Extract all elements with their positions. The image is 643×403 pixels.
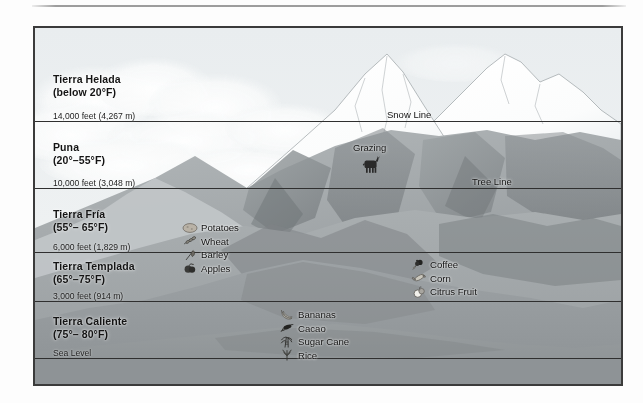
grazing-label: Grazing (353, 142, 386, 153)
barley-icon (181, 248, 198, 261)
crop-name-citrus-fruit: Citrus Fruit (430, 286, 477, 297)
snow-line-label: Snow Line (387, 109, 431, 120)
crop-name-coffee: Coffee (430, 259, 458, 270)
elevation-label-14000ft: 14,000 feet (4,267 m) (53, 111, 135, 121)
crop-name-cacao: Cacao (298, 323, 326, 334)
crop-item-barley: Barley (181, 248, 239, 261)
page-background: Tierra Helada (below 20°F) 14,000 feet (… (0, 0, 643, 403)
elevation-label-10000ft: 10,000 feet (3,048 m) (53, 178, 135, 188)
banana-icon (278, 308, 295, 321)
zone-name-tierra-fria: Tierra Fría (53, 208, 108, 221)
crop-list-tierra-templada: Coffee Corn (410, 258, 477, 299)
crop-item-apples: Apples (181, 262, 239, 275)
llama-icon-glyph (359, 156, 383, 174)
zone-label-tierra-fria: Tierra Fría (55°– 65°F) (53, 208, 108, 233)
zone-temp-puna: (20°–55°F) (53, 154, 105, 167)
crop-item-corn: Corn (410, 272, 477, 285)
zone-temp-tierra-helada: (below 20°F) (53, 86, 121, 99)
crop-name-rice: Rice (298, 350, 317, 361)
potato-icon (181, 221, 198, 234)
crop-list-tierra-fria: Potatoes Wheat (181, 221, 239, 275)
corn-icon (410, 272, 427, 285)
citrus-icon (410, 285, 427, 298)
zone-label-tierra-helada: Tierra Helada (below 20°F) (53, 73, 121, 98)
zone-name-tierra-templada: Tierra Templada (53, 260, 135, 273)
diagram-frame: Tierra Helada (below 20°F) 14,000 feet (… (33, 26, 623, 386)
tree-line-label: Tree Line (472, 176, 512, 187)
crop-item-coffee: Coffee (410, 258, 477, 271)
crop-name-corn: Corn (430, 273, 451, 284)
zone-temp-tierra-templada: (65°–75°F) (53, 273, 135, 286)
wheat-icon (181, 235, 198, 248)
zone-name-tierra-helada: Tierra Helada (53, 73, 121, 86)
page-header-rule (32, 5, 626, 7)
llama-icon (359, 156, 383, 178)
zone-name-tierra-caliente: Tierra Caliente (53, 315, 127, 328)
crop-item-rice: Rice (278, 349, 349, 362)
sugarcane-icon (278, 335, 295, 348)
apple-icon (181, 262, 198, 275)
zone-label-tierra-caliente: Tierra Caliente (75°– 80°F) (53, 315, 127, 340)
elevation-label-sea-level: Sea Level (53, 348, 91, 358)
crop-name-potatoes: Potatoes (201, 222, 239, 233)
zone-name-puna: Puna (53, 141, 105, 154)
crop-item-bananas: Bananas (278, 308, 349, 321)
crop-item-wheat: Wheat (181, 235, 239, 248)
zone-label-puna: Puna (20°–55°F) (53, 141, 105, 166)
crop-name-apples: Apples (201, 263, 230, 274)
zone-label-tierra-templada: Tierra Templada (65°–75°F) (53, 260, 135, 285)
crop-item-cacao: Cacao (278, 322, 349, 335)
crop-item-citrus-fruit: Citrus Fruit (410, 285, 477, 298)
elevation-label-3000ft: 3,000 feet (914 m) (53, 291, 123, 301)
coffee-icon (410, 258, 427, 271)
crop-name-wheat: Wheat (201, 236, 229, 247)
crop-list-tierra-caliente: Bananas Cacao (278, 308, 349, 362)
zone-temp-tierra-fria: (55°– 65°F) (53, 221, 108, 234)
crop-name-barley: Barley (201, 249, 228, 260)
crop-item-sugar-cane: Sugar Cane (278, 335, 349, 348)
rice-icon (278, 349, 295, 362)
crop-item-potatoes: Potatoes (181, 221, 239, 234)
cacao-icon (278, 322, 295, 335)
crop-name-sugar-cane: Sugar Cane (298, 336, 349, 347)
elevation-label-6000ft: 6,000 feet (1,829 m) (53, 242, 130, 252)
zone-temp-tierra-caliente: (75°– 80°F) (53, 328, 127, 341)
crop-name-bananas: Bananas (298, 309, 336, 320)
